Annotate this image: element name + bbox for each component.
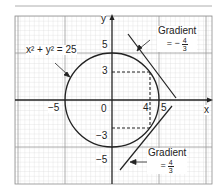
gradient-upper-sign: = − xyxy=(167,39,180,48)
gradient-upper-title: Gradient xyxy=(158,26,196,37)
gradient-upper-denominator: 3 xyxy=(183,45,187,52)
x-axis-label: x xyxy=(204,105,209,115)
gradient-lower-title: Gradient xyxy=(148,148,186,159)
gradient-lower-denominator: 3 xyxy=(169,167,173,174)
gradient-label-upper: Gradient = − 4 3 xyxy=(157,26,197,52)
y-tick-3: 3 xyxy=(102,66,108,76)
x-tick-neg5: −5 xyxy=(48,103,59,113)
y-axis-label: y xyxy=(101,14,106,24)
x-tick-5: 5 xyxy=(161,103,167,113)
gradient-upper-fraction: 4 3 xyxy=(182,37,188,52)
gradient-upper-numerator: 4 xyxy=(182,37,188,45)
gradient-lower-sign: = xyxy=(161,161,166,170)
circle-equation-label: x² + y² = 25 xyxy=(26,45,77,55)
x-tick-4: 4 xyxy=(143,103,149,113)
gradient-lower-fraction: 4 3 xyxy=(168,159,174,174)
gradient-label-lower: Gradient = 4 3 xyxy=(147,148,187,174)
y-tick-5: 5 xyxy=(102,40,108,50)
gradient-lower-numerator: 4 xyxy=(168,159,174,167)
y-tick-neg5: −5 xyxy=(96,155,107,165)
origin-label: 0 xyxy=(101,104,107,114)
y-tick-neg3: −3 xyxy=(96,131,107,141)
